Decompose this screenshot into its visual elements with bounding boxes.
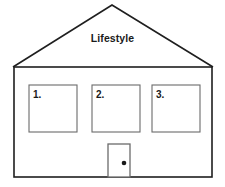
house-drawing bbox=[0, 0, 225, 187]
window-3[interactable] bbox=[152, 85, 200, 132]
house-diagram-canvas: Lifestyle 1. 2. 3. bbox=[0, 0, 225, 187]
window-2[interactable] bbox=[92, 85, 140, 132]
door[interactable] bbox=[108, 144, 130, 177]
doorknob-icon bbox=[122, 161, 127, 166]
window-1[interactable] bbox=[29, 85, 77, 132]
